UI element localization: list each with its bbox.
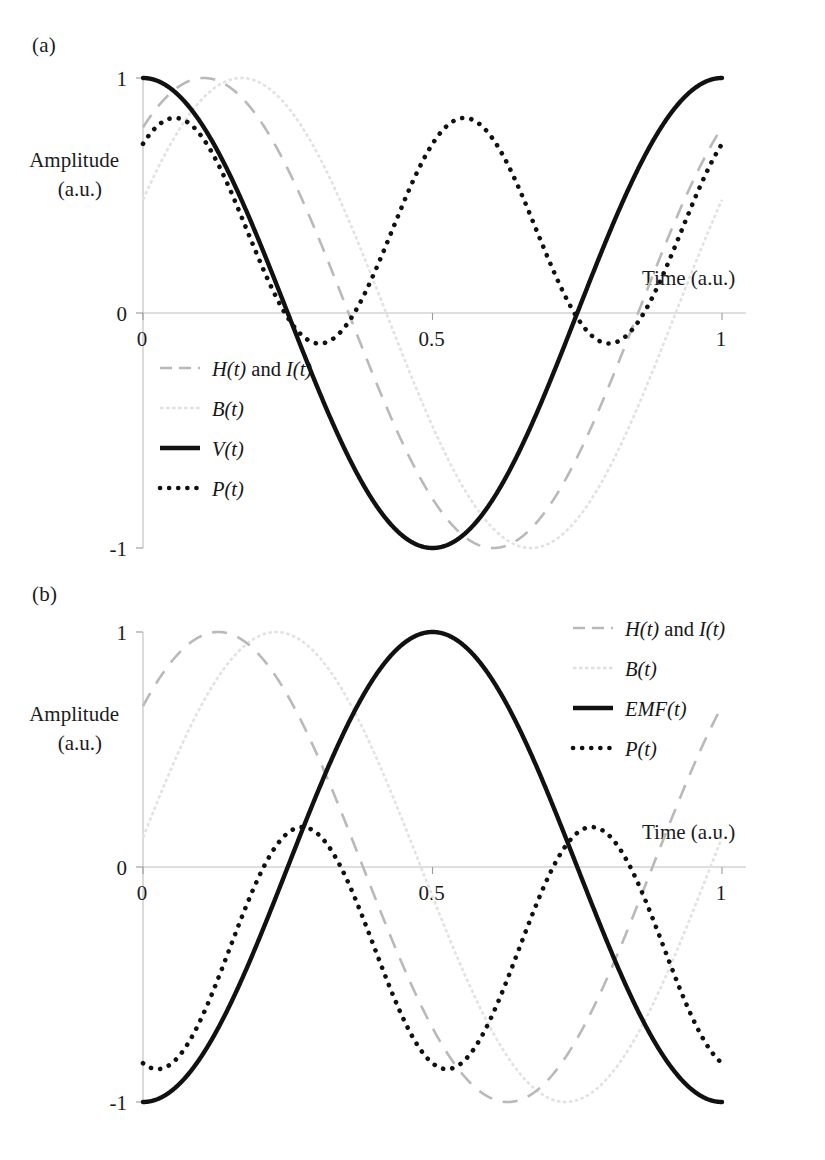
- legend: H(t) and I(t)B(t)V(t)P(t): [160, 358, 312, 501]
- x-tick-label: 1: [716, 327, 727, 351]
- x-tick-label: 0: [137, 881, 148, 905]
- x-tick-label: 0: [137, 327, 148, 351]
- figure-caption-strip: [0, 1144, 825, 1160]
- curve-pt: [143, 118, 722, 344]
- y-axis-title-line1: Amplitude: [29, 148, 119, 172]
- x-tick-label: 0.5: [418, 327, 444, 351]
- y-tick-label: 1: [117, 621, 128, 645]
- legend-label-v: V(t): [212, 438, 244, 461]
- panel-b-plot: 10-100.51Amplitude(a.u.)Time (a.u.)H(t) …: [0, 560, 825, 1160]
- y-axis-title-line1: Amplitude: [29, 702, 119, 726]
- legend: H(t) and I(t)B(t)EMF(t)P(t): [573, 618, 725, 761]
- legend-label-b: B(t): [212, 398, 244, 421]
- y-tick-label: -1: [110, 1091, 128, 1115]
- legend-label-hi: H(t) and I(t): [211, 358, 312, 381]
- figure-root: (a) 10-100.51Amplitude(a.u.)Time (a.u.)H…: [0, 0, 825, 1160]
- legend-label-emf: EMF(t): [624, 698, 687, 721]
- y-tick-label: 1: [117, 67, 128, 91]
- panel-b: (b) 10-100.51Amplitude(a.u.)Time (a.u.)H…: [0, 560, 825, 1160]
- legend-label-p: P(t): [211, 478, 244, 501]
- curve-pt: [143, 827, 722, 1069]
- legend-label-p: P(t): [624, 738, 657, 761]
- x-axis-title: Time (a.u.): [642, 820, 735, 844]
- panel-a-plot: 10-100.51Amplitude(a.u.)Time (a.u.)H(t) …: [0, 0, 825, 560]
- y-tick-label: 0: [117, 856, 128, 880]
- y-axis-title-line2: (a.u.): [58, 731, 102, 755]
- legend-label-hi: H(t) and I(t): [624, 618, 725, 641]
- y-tick-label: -1: [110, 537, 128, 560]
- panel-a: (a) 10-100.51Amplitude(a.u.)Time (a.u.)H…: [0, 0, 825, 560]
- y-axis-title-line2: (a.u.): [58, 177, 102, 201]
- legend-label-b: B(t): [625, 658, 657, 681]
- x-tick-label: 1: [716, 881, 727, 905]
- y-tick-label: 0: [117, 302, 128, 326]
